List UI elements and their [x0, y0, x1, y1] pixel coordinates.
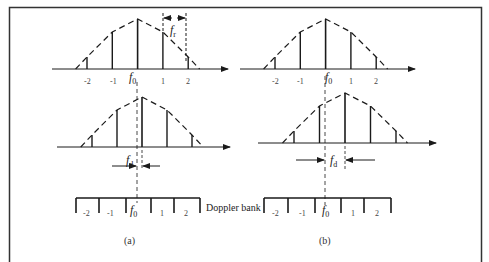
bank-bin-label: 1 [351, 209, 355, 218]
panel-b-shifted-spectrum: fd [258, 93, 436, 170]
figure-frame [10, 8, 482, 262]
tick-label: 2 [374, 77, 378, 86]
panel-a: fr -2 -1 1 2 f0 fd -2 -1 [52, 13, 230, 247]
bank-bin-label: -2 [83, 209, 90, 218]
panel-b-doppler-bank: -2 -1 f0 1 2 [264, 198, 391, 219]
tick-label: -2 [272, 77, 279, 86]
bank-bin-label: -1 [299, 209, 306, 218]
panel-b: -2 -1 1 2 f0 fd -2 -1 f0 1 2 (b) [240, 19, 436, 247]
panel-b-top-spectrum: -2 -1 1 2 f0 [240, 19, 415, 86]
tick-label: -1 [110, 77, 117, 86]
f0-label: f0 [129, 70, 136, 86]
tick-label: 2 [186, 77, 190, 86]
panel-a-caption: (a) [124, 235, 135, 247]
bank-bin-label: f0 [322, 203, 329, 219]
f0-label: f0 [325, 70, 332, 86]
tick-label: 1 [349, 77, 353, 86]
fr-label: fr [170, 23, 176, 39]
bank-bin-label: -1 [107, 209, 114, 218]
bank-bin-label: -2 [272, 209, 279, 218]
panel-a-shifted-spectrum: fd [57, 97, 230, 170]
tick-label: 1 [161, 77, 165, 86]
tick-label: -1 [297, 77, 304, 86]
doppler-bank-label: Doppler bank [206, 202, 261, 213]
tick-label: -2 [84, 77, 91, 86]
bank-bin-label: f0 [130, 203, 137, 219]
panel-a-doppler-bank: -2 -1 f0 1 2 [76, 198, 200, 219]
panel-a-top-spectrum: fr -2 -1 1 2 f0 [52, 13, 228, 86]
bank-bin-label: 2 [375, 209, 379, 218]
fd-label: fd [126, 153, 133, 169]
panel-b-caption: (b) [319, 235, 331, 247]
bank-bin-label: 1 [160, 209, 164, 218]
doppler-bank-diagram: fr -2 -1 1 2 f0 fd -2 -1 [0, 0, 489, 262]
fd-label: fd [330, 153, 337, 169]
bank-bin-label: 2 [184, 209, 188, 218]
